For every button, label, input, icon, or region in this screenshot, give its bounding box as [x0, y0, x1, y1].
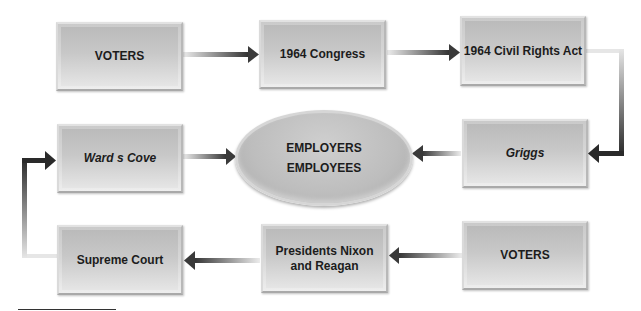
arrow-voters-to-congress [183, 46, 259, 63]
node-label-employees: EMPLOYEES [287, 158, 362, 178]
node-griggs: Griggs [462, 119, 588, 188]
node-label: VOTERS [500, 248, 549, 263]
arrow-congress-to-civil-rights-act [387, 44, 460, 61]
node-label-line1: Presidents Nixon [275, 244, 373, 259]
node-1964-congress: 1964 Congress [259, 20, 386, 89]
node-label: Griggs [506, 146, 545, 161]
node-1964-civil-rights-act: 1964 Civil Rights Act [460, 16, 586, 86]
node-label: VOTERS [95, 49, 144, 64]
arrow-presidents-to-supreme-court [184, 251, 260, 270]
footnote-rule [18, 309, 116, 310]
node-presidents-nixon-reagan: Presidents Nixon and Reagan [261, 224, 388, 293]
node-voters-top: VOTERS [56, 22, 183, 91]
arrow-civil-rights-act-to-griggs [586, 49, 624, 163]
arrow-wards-cove-to-employers [183, 148, 236, 165]
arrow-supreme-court-to-wards-cove [22, 151, 58, 258]
node-label: 1964 Congress [280, 47, 365, 62]
node-label-line2: and Reagan [290, 259, 358, 274]
node-label-employers: EMPLOYERS [286, 138, 361, 158]
node-label: 1964 Civil Rights Act [464, 44, 582, 59]
node-label: Ward s Cove [84, 151, 156, 166]
node-wards-cove: Ward s Cove [57, 124, 183, 193]
node-voters-bottom: VOTERS [462, 221, 588, 290]
arrow-voters-to-presidents [389, 247, 462, 264]
arrow-griggs-to-employers [412, 145, 461, 162]
node-supreme-court: Supreme Court [57, 225, 183, 295]
node-employers-employees: EMPLOYERS EMPLOYEES [235, 110, 413, 206]
node-label: Supreme Court [77, 253, 164, 268]
